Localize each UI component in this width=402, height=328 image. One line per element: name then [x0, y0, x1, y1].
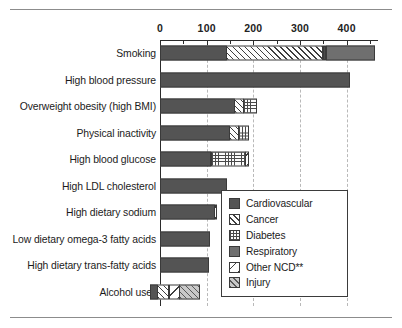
stacked-bar[interactable] — [160, 205, 217, 220]
x-tick-label-400: 400 — [338, 22, 356, 34]
bar-row-label: Overweight obesity (high BMI) — [20, 101, 156, 112]
bar-segment-diab[interactable] — [238, 125, 250, 140]
bar-row-label: Physical inactivity — [76, 127, 156, 138]
stacked-bar[interactable] — [160, 152, 249, 167]
legend-item-diab[interactable]: Diabetes — [229, 228, 341, 244]
bar-segment-cancer[interactable] — [157, 284, 169, 299]
legend-item-resp[interactable]: Respiratory — [229, 243, 341, 259]
legend-swatch-cancer-icon — [229, 214, 240, 225]
bar-row: Overweight obesity (high BMI) — [0, 93, 402, 120]
bar-segment-cardio[interactable] — [160, 46, 227, 61]
bar-row-label: Smoking — [116, 48, 156, 59]
stacked-bar[interactable] — [160, 258, 209, 273]
bar-segment-cardio[interactable] — [160, 152, 211, 167]
x-axis-tick-labels: 0100200300400 — [0, 22, 402, 36]
legend-item-injury[interactable]: Injury — [229, 275, 341, 291]
bar-segment-injury[interactable] — [179, 284, 200, 299]
bar-segment-other[interactable] — [245, 152, 250, 167]
bar-row: High blood pressure — [0, 67, 402, 94]
legend-item-cancer[interactable]: Cancer — [229, 212, 341, 228]
bar-row-label: High blood glucose — [69, 154, 156, 165]
risk-factor-stacked-bar-chart: 0100200300400 SmokingHigh blood pressure… — [0, 0, 402, 328]
legend-swatch-other-icon — [229, 262, 240, 273]
bar-segment-cancer[interactable] — [226, 46, 323, 61]
legend-label: Other NCD** — [246, 262, 303, 273]
legend-item-other[interactable]: Other NCD** — [229, 259, 341, 275]
legend-item-cardio[interactable]: Cardiovascular — [229, 196, 341, 212]
bar-segment-cardio[interactable] — [160, 72, 350, 87]
legend-label: Cardiovascular — [246, 198, 313, 209]
bar-row-label: High LDL cholesterol — [62, 180, 156, 191]
stacked-bar[interactable] — [160, 46, 375, 61]
bar-row: High blood glucose — [0, 146, 402, 173]
bar-segment-cardio[interactable] — [160, 125, 230, 140]
bar-segment-cardio[interactable] — [160, 99, 235, 114]
legend-label: Respiratory — [246, 246, 297, 257]
x-tick-label-300: 300 — [291, 22, 309, 34]
x-tick-label-200: 200 — [244, 22, 262, 34]
bar-row-label: High dietary trans-fatty acids — [27, 260, 156, 271]
bar-row: Physical inactivity — [0, 120, 402, 147]
bar-segment-other[interactable] — [214, 205, 217, 220]
bar-row-label: High dietary sodium — [66, 207, 156, 218]
stacked-bar[interactable] — [160, 99, 257, 114]
bar-segment-cardio[interactable] — [160, 178, 227, 193]
stacked-bar[interactable] — [160, 178, 227, 193]
chart-legend: CardiovascularCancerDiabetesRespiratoryO… — [221, 190, 348, 297]
bar-segment-diab[interactable] — [211, 152, 246, 167]
x-tick-label-100: 100 — [198, 22, 216, 34]
bar-segment-cardio[interactable] — [160, 258, 209, 273]
stacked-bar[interactable] — [150, 284, 200, 299]
legend-label: Cancer — [246, 214, 278, 225]
bar-row-label: Low dietary omega-3 fatty acids — [12, 233, 156, 244]
stacked-bar[interactable] — [160, 125, 249, 140]
bar-row-label: High blood pressure — [65, 74, 156, 85]
stacked-bar[interactable] — [160, 231, 210, 246]
legend-label: Injury — [246, 277, 270, 288]
legend-swatch-diab-icon — [229, 230, 240, 241]
stacked-bar[interactable] — [160, 72, 350, 87]
legend-swatch-injury-icon — [229, 277, 240, 288]
bar-segment-cardio[interactable] — [160, 231, 210, 246]
x-tick-label-0: 0 — [157, 22, 163, 34]
bar-row: Smoking — [0, 40, 402, 67]
legend-label: Diabetes — [246, 230, 285, 241]
bar-segment-resp[interactable] — [326, 46, 375, 61]
bar-segment-diab[interactable] — [243, 99, 257, 114]
legend-swatch-cardio-icon — [229, 198, 240, 209]
legend-swatch-resp-icon — [229, 246, 240, 257]
bar-row-label: Alcohol use* — [99, 286, 156, 297]
bar-segment-cardio[interactable] — [160, 205, 215, 220]
